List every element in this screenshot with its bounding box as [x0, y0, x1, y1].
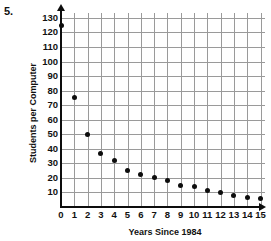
y-axis-tick-labels: 102030405060708090100110120130 — [26, 0, 58, 241]
gridline-vertical — [74, 13, 75, 207]
data-point — [125, 168, 130, 173]
x-axis-tick-labels: 0123456789101112131415 — [0, 209, 271, 223]
gridline-vertical — [207, 13, 208, 207]
y-tick-label: 10 — [28, 187, 58, 197]
data-point — [192, 184, 197, 189]
y-tick-label: 120 — [28, 27, 58, 37]
y-axis-line — [60, 10, 62, 208]
data-point — [245, 195, 250, 200]
gridline-vertical — [88, 13, 89, 207]
y-tick-label: 60 — [28, 115, 58, 125]
y-tick-label: 50 — [28, 129, 58, 139]
data-point — [231, 193, 236, 198]
x-tick-label: 15 — [251, 209, 271, 220]
gridline-vertical — [234, 13, 235, 207]
data-point — [85, 132, 90, 137]
data-point — [138, 172, 143, 177]
y-tick-label: 20 — [28, 173, 58, 183]
gridline-vertical — [181, 13, 182, 207]
y-tick-label: 30 — [28, 158, 58, 168]
data-point — [178, 183, 183, 188]
x-axis-title: Years Since 1984 — [60, 227, 270, 237]
data-point — [165, 178, 170, 183]
x-axis-line — [60, 206, 260, 208]
problem-number: 5. — [4, 5, 13, 17]
y-tick-label: 100 — [28, 57, 58, 67]
y-tick-label: 90 — [28, 71, 58, 81]
data-point — [112, 158, 117, 163]
y-tick-label: 70 — [28, 100, 58, 110]
data-point — [152, 175, 157, 180]
gridline-vertical — [221, 13, 222, 207]
gridline-vertical — [247, 13, 248, 207]
data-point — [218, 190, 223, 195]
gridline-vertical — [128, 13, 129, 207]
data-point — [72, 95, 77, 100]
chart-figure: 5. Students per Computer Years Since 198… — [0, 0, 271, 241]
gridline-vertical — [261, 13, 262, 207]
data-point — [258, 196, 263, 201]
gridline-vertical — [141, 13, 142, 207]
gridline-vertical — [101, 13, 102, 207]
gridline-vertical — [114, 13, 115, 207]
y-axis-arrow-icon — [57, 4, 65, 11]
data-point — [98, 151, 103, 156]
y-tick-label: 80 — [28, 86, 58, 96]
gridline-vertical — [194, 13, 195, 207]
plot-area — [61, 13, 265, 207]
y-tick-label: 40 — [28, 144, 58, 154]
y-tick-label: 110 — [28, 42, 58, 52]
y-tick-label: 130 — [28, 13, 58, 23]
